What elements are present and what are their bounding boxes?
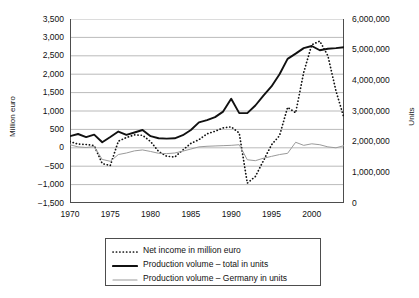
plot-area [70,19,344,203]
series-line [70,46,344,142]
y-axis-left-tick-label: 1,000 [24,106,64,116]
chart-legend: Net income in million euroProduction vol… [105,238,321,286]
legend-label: Production volume – total in units [143,258,268,270]
x-axis-tick-label: 1970 [50,209,90,219]
y-axis-left-title: Million euro [8,82,17,152]
legend-swatch-icon [112,258,138,270]
y-axis-right-tick-label: 5,000,000 [352,44,412,54]
y-axis-left-tick-label: 500 [24,124,64,134]
y-axis-right-tick-label: 2,000,000 [352,136,412,146]
legend-item: Production volume – total in units [112,257,314,271]
x-axis-tick-label: 1995 [251,209,291,219]
x-axis-tick-label: 1985 [171,209,211,219]
y-axis-right-tick-label: 0 [352,198,412,208]
legend-label: Net income in million euro [143,244,241,256]
y-axis-left-tick-label: 2,500 [24,50,64,60]
legend-swatch-icon [112,244,138,256]
series-line [70,142,344,161]
x-axis-tick-label: 1975 [90,209,130,219]
legend-swatch-icon [112,272,138,284]
x-axis-tick-label: 1990 [211,209,251,219]
legend-item: Net income in million euro [112,243,314,257]
y-axis-left-tick-label: 0 [24,142,64,152]
x-axis-tick-label: 2000 [292,209,332,219]
y-axis-left-tick-label: 3,500 [24,14,64,24]
y-axis-left-tick-label: 1,500 [24,87,64,97]
y-axis-right-tick-label: 1,000,000 [352,167,412,177]
y-axis-left-tick-label: −500 [24,161,64,171]
y-axis-right-tick-label: 6,000,000 [352,14,412,24]
plot-svg [70,19,344,203]
y-axis-left-tick-label: 3,000 [24,32,64,42]
legend-label: Production volume – Germany in units [143,272,287,284]
y-axis-left-tick-label: −1,500 [24,198,64,208]
y-axis-right-tick-label: 3,000,000 [352,106,412,116]
chart-container: Million euro Units 3,5003,0002,5002,0001… [0,0,419,298]
series-line [70,41,344,183]
x-axis-tick-label: 1980 [131,209,171,219]
y-axis-left-tick-label: −1,000 [24,179,64,189]
legend-item: Production volume – Germany in units [112,271,314,285]
y-axis-right-tick-label: 4,000,000 [352,75,412,85]
y-axis-left-tick-label: 2,000 [24,69,64,79]
